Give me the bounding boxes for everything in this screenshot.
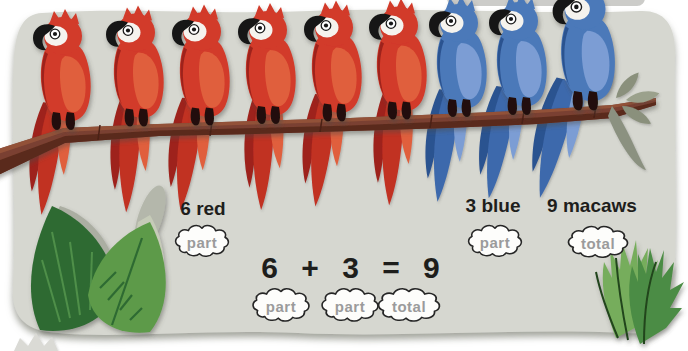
label-blue-count: 3 blue bbox=[466, 195, 521, 216]
equation-text: 6 + 3 = 9 bbox=[261, 251, 442, 284]
label-red-count: 6 red bbox=[180, 198, 225, 219]
corner-paper-shape bbox=[14, 333, 58, 351]
textbook-illustration: 6 red 3 blue 9 macaws 6 + 3 = 9 part par… bbox=[0, 0, 688, 351]
total-cloud-top-text: total bbox=[581, 235, 615, 252]
total-cloud-eq-text: total bbox=[392, 298, 426, 315]
page-tab bbox=[447, 0, 645, 6]
part-cloud-eq-1-text: part bbox=[266, 298, 296, 315]
part-cloud-blue-text: part bbox=[480, 234, 510, 251]
part-cloud-red-text: part bbox=[187, 234, 217, 251]
part-cloud-eq-2-text: part bbox=[335, 298, 365, 315]
label-total-count: 9 macaws bbox=[547, 195, 637, 216]
